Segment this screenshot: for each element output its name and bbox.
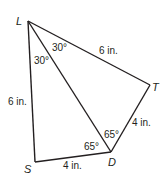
angle-label-SDL: 65° bbox=[84, 141, 99, 152]
vertex-label-S: S bbox=[24, 163, 32, 175]
length-label-SL: 6 in. bbox=[8, 96, 27, 107]
segment-SL bbox=[28, 21, 35, 162]
length-label-LT: 6 in. bbox=[99, 45, 118, 56]
vertex-label-D: D bbox=[108, 156, 116, 168]
kite-diagram: L T D S 6 in. 4 in. 4 in. 6 in. 30° 30° … bbox=[0, 0, 168, 178]
length-label-DS: 4 in. bbox=[63, 160, 82, 171]
length-label-TD: 4 in. bbox=[132, 117, 151, 128]
vertex-label-T: T bbox=[152, 81, 160, 93]
vertex-label-L: L bbox=[16, 15, 22, 27]
angle-label-SLD: 30° bbox=[34, 55, 49, 66]
segment-LT bbox=[28, 21, 150, 85]
angle-label-DLT: 30° bbox=[52, 42, 67, 53]
diagram-canvas: L T D S 6 in. 4 in. 4 in. 6 in. 30° 30° … bbox=[0, 0, 168, 178]
diagonal-LD bbox=[28, 21, 111, 152]
angle-label-LDT: 65° bbox=[104, 129, 119, 140]
